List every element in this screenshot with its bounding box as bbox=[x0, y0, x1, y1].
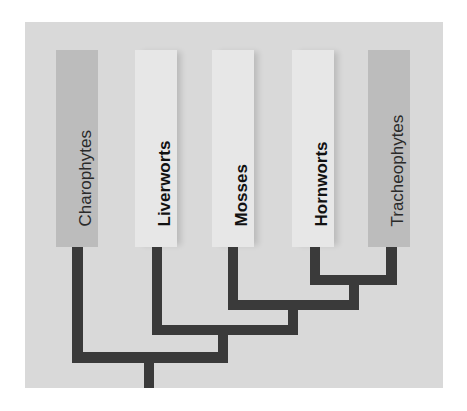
node-mosses-clade bbox=[228, 300, 359, 310]
branch-charophytes bbox=[72, 247, 83, 363]
node-root bbox=[72, 352, 228, 363]
node-liverworts-clade bbox=[152, 325, 298, 335]
branch-root bbox=[144, 363, 154, 388]
cladogram-branches bbox=[0, 0, 467, 411]
node-hornworts-tracheophytes bbox=[310, 275, 397, 285]
branch-liverworts bbox=[152, 247, 162, 335]
